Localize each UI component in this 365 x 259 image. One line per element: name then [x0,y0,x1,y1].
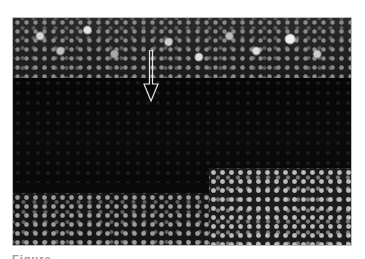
bright-cell-region-bottom-right [209,168,351,246]
micrograph-image [12,17,352,246]
figure-caption: Figure [12,254,52,259]
arrow-down-icon [143,50,159,102]
bright-cell-region-top [13,18,351,78]
